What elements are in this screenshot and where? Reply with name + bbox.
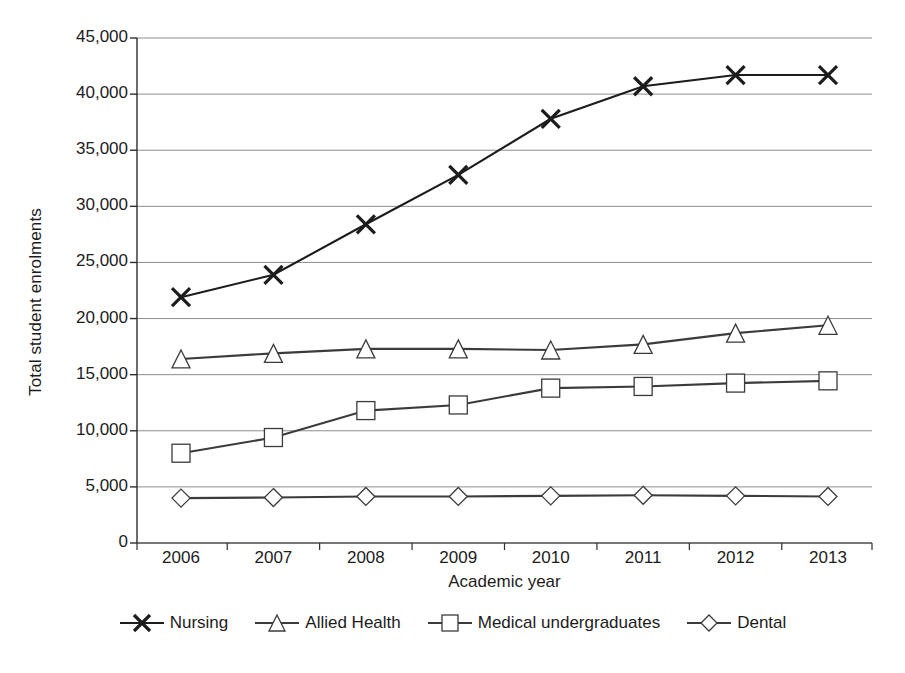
data-point-marker: [819, 372, 837, 390]
data-point-marker: [172, 489, 190, 507]
x-tick-label: 2006: [136, 548, 226, 568]
x-tick-label: 2010: [506, 548, 596, 568]
x-tick-label: 2007: [228, 548, 318, 568]
legend-item-triangle[interactable]: Allied Health: [254, 612, 400, 634]
legend-label: Dental: [737, 613, 786, 633]
data-point-marker: [264, 266, 282, 284]
legend-label: Allied Health: [305, 613, 400, 633]
y-tick-label: 30,000: [28, 195, 128, 215]
x-tick-label: 2011: [598, 548, 688, 568]
data-point-marker: [634, 486, 652, 504]
line-chart: Total student enrolments Academic year 0…: [0, 0, 905, 673]
series-line: [181, 75, 828, 297]
chart-legend: NursingAllied HealthMedical undergraduat…: [0, 612, 905, 634]
data-point-marker: [819, 487, 837, 505]
data-point-marker: [264, 489, 282, 507]
legend-label: Medical undergraduates: [478, 613, 660, 633]
y-tick-label: 0: [28, 532, 128, 552]
data-point-marker: [449, 487, 467, 505]
data-point-marker: [542, 110, 560, 128]
legend-label: Nursing: [170, 613, 229, 633]
data-point-marker: [701, 615, 717, 631]
data-point-marker: [264, 429, 282, 447]
data-point-marker: [542, 379, 560, 397]
y-tick-label: 15,000: [28, 364, 128, 384]
x-tick-label: 2012: [691, 548, 781, 568]
x-tick-label: 2008: [321, 548, 411, 568]
x-tick-label: 2009: [413, 548, 503, 568]
y-tick-label: 20,000: [28, 308, 128, 328]
legend-marker-icon: [686, 612, 732, 634]
y-tick-label: 25,000: [28, 251, 128, 271]
y-tick-label: 10,000: [28, 420, 128, 440]
data-point-marker: [172, 444, 190, 462]
data-point-marker: [172, 288, 190, 306]
data-point-marker: [727, 487, 745, 505]
data-point-marker: [449, 166, 467, 184]
data-point-marker: [357, 402, 375, 420]
x-axis-title: Academic year: [137, 572, 872, 592]
legend-item-diamond[interactable]: Dental: [686, 612, 786, 634]
data-point-marker: [449, 396, 467, 414]
legend-marker-icon: [119, 612, 165, 634]
y-tick-label: 45,000: [28, 27, 128, 47]
y-tick-label: 35,000: [28, 139, 128, 159]
y-tick-label: 40,000: [28, 83, 128, 103]
data-point-marker: [357, 487, 375, 505]
legend-marker-icon: [254, 612, 300, 634]
data-point-marker: [442, 615, 458, 631]
data-point-marker: [727, 374, 745, 392]
data-point-marker: [542, 487, 560, 505]
data-point-marker: [634, 377, 652, 395]
y-tick-label: 5,000: [28, 476, 128, 496]
legend-item-square[interactable]: Medical undergraduates: [427, 612, 660, 634]
x-tick-label: 2013: [783, 548, 873, 568]
legend-item-x[interactable]: Nursing: [119, 612, 229, 634]
legend-marker-icon: [427, 612, 473, 634]
data-point-marker: [357, 215, 375, 233]
